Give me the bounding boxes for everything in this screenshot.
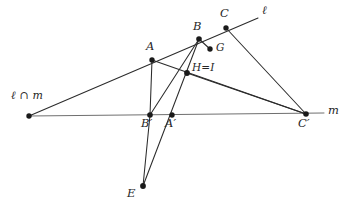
label-B: B (193, 21, 202, 33)
geometry-canvas (0, 0, 347, 209)
line-m (29, 113, 324, 116)
label-C: C (220, 8, 229, 20)
point-A (149, 57, 154, 62)
point-l-intersect-m (26, 113, 31, 118)
label-l-intersect-m: ℓ ∩ m (11, 90, 43, 101)
segment-C-Cprime (226, 28, 306, 114)
point-H-equals-I (184, 70, 190, 76)
line-l (29, 18, 258, 116)
label-line-l: ℓ (262, 5, 267, 17)
segment-HI-Cprime (187, 73, 306, 114)
label-A-prime: A′ (165, 118, 176, 130)
segment-A-Bprime (150, 60, 152, 115)
point-C (223, 25, 228, 30)
label-A: A (146, 41, 155, 53)
point-B (196, 36, 202, 42)
label-H-equals-I: H=I (192, 62, 215, 73)
label-G: G (216, 42, 225, 53)
label-line-m: m (328, 105, 339, 117)
point-G (207, 46, 212, 51)
label-E: E (127, 188, 136, 200)
label-C-prime: C′ (298, 118, 310, 130)
label-B-prime: B′ (141, 118, 152, 130)
point-E (140, 183, 146, 189)
geometry-figure: ℓ ∩ m ℓ m A B C G H=I B′ A′ C′ E (0, 0, 347, 209)
